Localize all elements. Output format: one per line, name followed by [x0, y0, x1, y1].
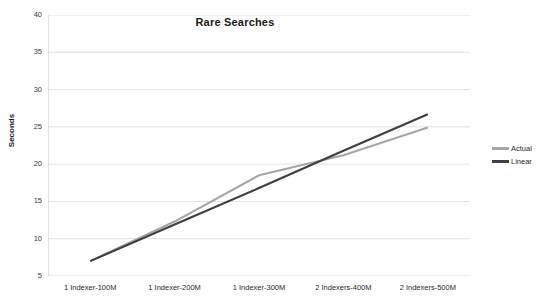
plot-svg — [48, 15, 470, 276]
legend-swatch-icon — [492, 160, 509, 163]
legend-swatch-icon — [492, 147, 509, 150]
legend-label: Linear — [511, 157, 532, 166]
x-tick-label: 2 Indexers-500M — [383, 283, 473, 292]
chart-container: Rare Searches Seconds 510152025303540 1 … — [0, 0, 545, 303]
series-line-actual — [90, 128, 428, 261]
y-tick-label: 30 — [14, 86, 42, 94]
legend-item[interactable]: Actual — [492, 142, 544, 155]
chart-legend: ActualLinear — [492, 142, 544, 168]
y-tick-label: 10 — [14, 235, 42, 243]
y-tick-label: 5 — [14, 272, 42, 280]
y-tick-label: 20 — [14, 160, 42, 168]
legend-item[interactable]: Linear — [492, 155, 544, 168]
x-tick-label: 1 Indexer-300M — [214, 283, 304, 292]
y-tick-label: 25 — [14, 123, 42, 131]
y-tick-label: 15 — [14, 197, 42, 205]
x-tick-label: 1 Indexer-100M — [45, 283, 135, 292]
y-tick-label: 35 — [14, 48, 42, 56]
y-tick-label: 40 — [14, 11, 42, 19]
x-tick-label: 1 Indexer-200M — [130, 283, 220, 292]
legend-label: Actual — [511, 144, 532, 153]
plot-area — [48, 15, 470, 276]
x-tick-label: 2 Indexers-400M — [298, 283, 388, 292]
